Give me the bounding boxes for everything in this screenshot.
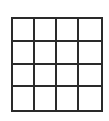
grid-cell bbox=[79, 87, 101, 110]
grid-cell bbox=[35, 65, 57, 88]
grid-cell bbox=[57, 42, 79, 65]
grid-cell bbox=[13, 65, 35, 88]
grid-cell bbox=[57, 19, 79, 42]
grid-cell bbox=[35, 42, 57, 65]
grid-cell bbox=[13, 19, 35, 42]
grid-cell bbox=[79, 65, 101, 88]
grid-cell bbox=[35, 87, 57, 110]
grid-4x4 bbox=[11, 17, 103, 112]
grid-cell bbox=[13, 87, 35, 110]
grid-cell bbox=[57, 65, 79, 88]
grid-cell bbox=[13, 42, 35, 65]
grid-cell bbox=[57, 87, 79, 110]
grid-cell bbox=[35, 19, 57, 42]
grid-cell bbox=[79, 42, 101, 65]
grid-cell bbox=[79, 19, 101, 42]
